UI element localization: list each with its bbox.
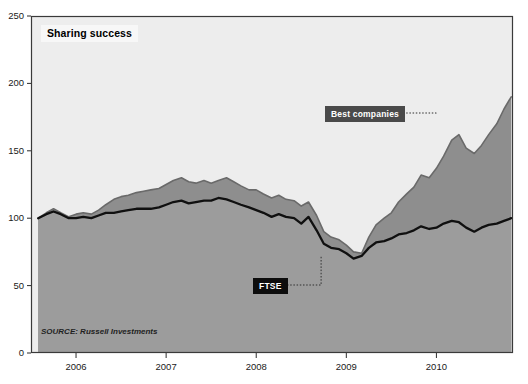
x-axis-tick-label: 2010 <box>411 361 461 372</box>
y-axis-tick-label: 250 <box>0 10 24 21</box>
y-axis-tick-label: 50 <box>0 280 24 291</box>
y-axis-tick-label: 150 <box>0 145 24 156</box>
callout-best-companies: Best companies <box>325 106 405 122</box>
chart-container: 05010015020025020062007200820092010Shari… <box>0 0 528 384</box>
chart-title: Sharing success <box>41 25 138 42</box>
x-axis-tick-label: 2007 <box>141 361 191 372</box>
callout-ftse: FTSE <box>253 278 288 294</box>
y-axis-tick-label: 100 <box>0 212 24 223</box>
x-axis-tick-label: 2006 <box>51 361 101 372</box>
x-axis-tick-label: 2008 <box>231 361 281 372</box>
y-axis-tick-label: 200 <box>0 77 24 88</box>
y-axis-tick-label: 0 <box>0 347 24 358</box>
x-axis-tick-label: 2009 <box>321 361 371 372</box>
source-note: SOURCE: Russell Investments <box>41 327 157 336</box>
